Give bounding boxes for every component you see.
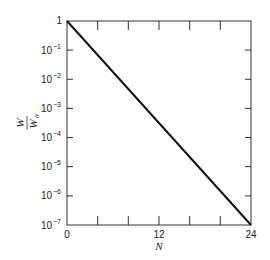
y-tick-labels: 1 10 −1 10 −2 10 −3 10 −4 10 −5 10 −6 10… bbox=[41, 15, 63, 231]
y-axis-label-denominator-sub: 0 bbox=[33, 114, 41, 118]
x-tick-labels: 0 12 24 bbox=[64, 229, 257, 240]
y-axis-label-denominator: W bbox=[27, 119, 39, 129]
data-line-series bbox=[67, 21, 251, 225]
y-tick-label-7-base: 10 bbox=[41, 220, 53, 231]
y-tick-label-1-exp: −1 bbox=[53, 43, 61, 50]
y-tick-label-3-exp: −3 bbox=[53, 101, 61, 108]
x-tick-label-12: 12 bbox=[153, 229, 165, 240]
y-axis-label-numerator: W bbox=[14, 118, 26, 128]
y-tick-label-6-exp: −6 bbox=[53, 188, 61, 195]
x-tick-label-0: 0 bbox=[64, 229, 70, 240]
y-axis-label: W W 0 bbox=[14, 114, 41, 130]
y-tick-label-3-base: 10 bbox=[41, 103, 53, 114]
y-tick-label-2-base: 10 bbox=[41, 74, 53, 85]
y-tick-label-2-exp: −2 bbox=[53, 72, 61, 79]
y-tick-label-1-base: 10 bbox=[41, 45, 53, 56]
x-axis-label: N bbox=[154, 240, 163, 252]
y-tick-label-5-exp: −5 bbox=[53, 159, 61, 166]
y-tick-label-0: 1 bbox=[56, 15, 62, 26]
y-tick-label-7-exp: −7 bbox=[53, 218, 61, 225]
y-tick-label-6-base: 10 bbox=[41, 190, 53, 201]
y-tick-label-4-base: 10 bbox=[41, 132, 53, 143]
y-tick-label-4-exp: −4 bbox=[53, 130, 61, 137]
y-tick-label-5-base: 10 bbox=[41, 161, 53, 172]
chart-canvas: 1 10 −1 10 −2 10 −3 10 −4 10 −5 10 −6 10… bbox=[0, 0, 270, 260]
x-tick-label-24: 24 bbox=[245, 229, 257, 240]
